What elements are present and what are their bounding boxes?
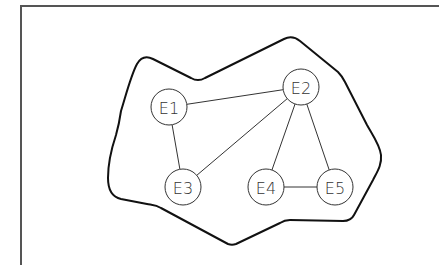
node-label: E4 <box>256 179 276 198</box>
node-label: E2 <box>291 79 311 98</box>
frame-border <box>21 6 439 265</box>
node-label: E1 <box>159 99 179 118</box>
edge-e2-e4 <box>272 104 295 170</box>
node-e5: E5 <box>317 169 353 205</box>
node-e2: E2 <box>283 69 319 105</box>
nodes: E1E2E3E4E5 <box>151 69 353 205</box>
edge-e2-e5 <box>307 104 329 170</box>
region-boundary <box>108 37 381 244</box>
edge-e1-e3 <box>172 125 180 170</box>
node-e1: E1 <box>151 89 187 125</box>
node-label: E3 <box>173 179 193 198</box>
diagram-canvas: E1E2E3E4E5 <box>0 0 439 265</box>
node-e4: E4 <box>248 169 284 205</box>
edge-e1-e2 <box>187 90 283 105</box>
node-label: E5 <box>325 179 345 198</box>
node-e3: E3 <box>165 169 201 205</box>
